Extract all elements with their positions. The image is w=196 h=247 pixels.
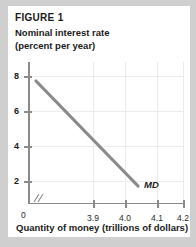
- y-tick-label-4: 4: [14, 141, 19, 151]
- y-axis-title-line1: Nominal interest rate: [15, 27, 110, 40]
- y-tick-label-6: 6: [14, 106, 19, 116]
- curve-label-md: MD: [144, 179, 159, 190]
- y-tick-label-8: 8: [14, 71, 19, 81]
- x-axis-caption: Quantity of money (trillions of dollars): [16, 222, 188, 233]
- y-axis-title: Nominal interest rate (percent per year): [15, 27, 110, 52]
- figure-label: FIGURE 1: [15, 12, 64, 23]
- origin-label: 0: [21, 210, 26, 220]
- y-axis-title-line2: (percent per year): [15, 40, 110, 53]
- plot-area: 8 6 4 2 3.9 4.0 4.1 4.2: [28, 62, 184, 204]
- money-demand-curve: [28, 62, 184, 204]
- figure-card: FIGURE 1 Nominal interest rate (percent …: [8, 6, 190, 237]
- y-tick-label-2: 2: [14, 176, 19, 186]
- figure-screenshot: FIGURE 1 Nominal interest rate (percent …: [0, 0, 196, 247]
